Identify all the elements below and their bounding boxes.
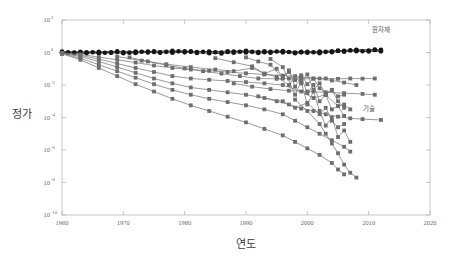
x-tick-label: 1960 xyxy=(56,219,69,226)
data-point xyxy=(164,50,169,55)
data-point xyxy=(244,71,248,75)
data-point xyxy=(373,47,378,52)
data-point xyxy=(379,118,383,122)
data-point xyxy=(79,58,83,62)
data-point xyxy=(324,112,328,116)
y-tick-exponent: -8 xyxy=(51,177,56,182)
data-point xyxy=(256,60,260,64)
data-point xyxy=(348,140,352,144)
data-point xyxy=(336,99,340,103)
data-point xyxy=(281,77,285,81)
data-point xyxy=(373,77,377,81)
data-point xyxy=(281,83,285,87)
y-tick-exponent: -2 xyxy=(51,80,56,85)
data-point xyxy=(299,80,303,84)
data-point xyxy=(287,50,292,55)
data-point xyxy=(330,107,334,111)
data-point xyxy=(256,77,260,81)
data-point xyxy=(305,51,310,56)
y-tick-exponent: 0 xyxy=(51,47,54,52)
data-point xyxy=(281,49,286,54)
data-point xyxy=(269,57,273,61)
raw-materials-label: 원자재 xyxy=(372,25,390,34)
data-point xyxy=(318,81,322,85)
data-point xyxy=(134,66,138,70)
data-point xyxy=(226,115,230,119)
data-point xyxy=(134,71,138,75)
data-point xyxy=(244,80,248,84)
data-point xyxy=(342,91,346,95)
data-point xyxy=(336,151,340,155)
technology-label: 기술 xyxy=(363,104,375,113)
data-point xyxy=(318,153,322,157)
data-point xyxy=(336,168,340,172)
data-point xyxy=(305,82,309,86)
data-point xyxy=(287,103,291,107)
chart-figure: 196019701980199020002010202010210010-210… xyxy=(0,0,454,266)
data-point xyxy=(256,94,260,98)
series-line xyxy=(295,100,356,178)
data-point xyxy=(115,65,119,69)
data-point xyxy=(115,74,119,78)
data-series-layer xyxy=(60,47,384,179)
y-tick-label: 10-2 xyxy=(44,80,56,89)
data-point xyxy=(97,66,101,70)
x-tick-label: 2010 xyxy=(362,219,375,226)
data-point xyxy=(146,50,151,55)
data-point xyxy=(342,145,346,149)
data-point xyxy=(355,83,359,87)
y-tick-mantissa: 10 xyxy=(44,211,51,218)
data-point xyxy=(336,104,340,108)
data-point xyxy=(152,49,157,54)
data-point xyxy=(348,171,352,175)
data-point xyxy=(232,69,236,73)
data-point xyxy=(312,109,316,113)
data-point xyxy=(293,93,297,97)
data-point xyxy=(219,51,224,56)
data-point xyxy=(134,82,138,86)
data-point xyxy=(238,74,242,78)
data-point xyxy=(311,50,316,55)
data-point xyxy=(305,103,309,107)
data-point xyxy=(324,124,328,128)
data-point xyxy=(330,79,334,83)
data-point xyxy=(262,49,267,54)
data-point xyxy=(152,90,156,94)
data-point xyxy=(342,81,346,85)
series-line xyxy=(62,53,350,109)
data-point xyxy=(336,125,340,129)
data-point xyxy=(299,75,303,79)
y-tick-exponent: 2 xyxy=(51,15,54,20)
data-point xyxy=(244,93,248,97)
data-point xyxy=(97,60,101,64)
data-point xyxy=(330,116,334,120)
x-tick-label: 1970 xyxy=(117,219,130,226)
data-point xyxy=(269,87,273,91)
y-tick-label: 10-6 xyxy=(44,145,56,154)
data-point xyxy=(97,49,102,54)
data-point xyxy=(324,77,328,81)
x-axis-title: 연도 xyxy=(236,238,256,250)
data-point xyxy=(238,49,243,54)
data-point xyxy=(171,74,175,78)
y-tick-mantissa: 10 xyxy=(44,81,51,88)
data-point xyxy=(207,88,211,92)
data-point xyxy=(281,112,285,116)
data-point xyxy=(60,52,64,56)
data-point xyxy=(305,146,309,150)
data-point xyxy=(152,77,156,81)
data-point xyxy=(281,133,285,137)
data-point xyxy=(226,79,230,83)
data-point xyxy=(115,58,119,62)
data-point xyxy=(115,69,119,73)
data-point xyxy=(133,49,138,54)
data-point xyxy=(244,120,248,124)
data-point xyxy=(189,65,193,69)
data-point xyxy=(207,109,211,113)
data-point xyxy=(299,107,303,111)
y-tick-label: 100 xyxy=(44,47,55,56)
data-point xyxy=(90,50,95,55)
data-point xyxy=(189,77,193,81)
data-point xyxy=(348,150,352,154)
data-point xyxy=(318,122,322,126)
